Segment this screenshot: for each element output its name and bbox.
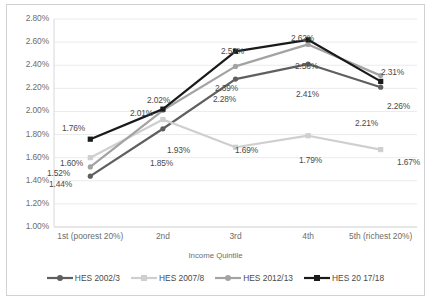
legend-item[interactable]: HES 2007/8 xyxy=(131,273,204,283)
data-point-marker xyxy=(306,133,311,138)
data-label: 2.02% xyxy=(147,95,170,105)
legend-marker-icon xyxy=(47,273,73,283)
data-label: 2.21% xyxy=(355,118,378,128)
data-point-marker xyxy=(88,155,93,160)
legend-label: HES 2012/13 xyxy=(243,273,293,283)
y-axis-tick-label: 1.00% xyxy=(9,221,49,231)
y-axis-tick-label: 2.80% xyxy=(9,13,49,23)
data-label: 2.58% xyxy=(295,61,318,71)
data-label: 2.39% xyxy=(215,83,238,93)
data-label: 1.44% xyxy=(49,179,72,189)
y-axis-tick-label: 1.80% xyxy=(9,129,49,139)
legend-item[interactable]: HES 20 17/18 xyxy=(304,273,384,283)
data-point-marker xyxy=(88,137,93,142)
legend-item[interactable]: HES 2012/13 xyxy=(215,273,293,283)
chart-legend: HES 2002/3HES 2007/8HES 2012/13HES 20 17… xyxy=(7,273,424,283)
data-point-marker xyxy=(233,76,238,81)
legend-label: HES 20 17/18 xyxy=(332,273,384,283)
y-axis-tick-label: 2.00% xyxy=(9,105,49,115)
y-axis-tick-label: 1.20% xyxy=(9,198,49,208)
data-point-marker xyxy=(88,164,93,169)
legend-label: HES 2007/8 xyxy=(159,273,204,283)
data-label: 1.76% xyxy=(62,123,85,133)
x-axis-title: Income Quintile xyxy=(7,251,424,260)
data-point-marker xyxy=(160,126,165,131)
data-point-marker xyxy=(378,85,383,90)
y-axis-tick-label: 1.60% xyxy=(9,152,49,162)
data-point-marker xyxy=(233,64,238,69)
legend-marker-icon xyxy=(131,273,157,283)
data-point-marker xyxy=(88,174,93,179)
data-label: 1.67% xyxy=(397,157,420,167)
data-label: 1.60% xyxy=(60,158,83,168)
legend-item[interactable]: HES 2002/3 xyxy=(47,273,120,283)
data-label: 1.93% xyxy=(167,145,190,155)
data-label: 2.01% xyxy=(130,108,153,118)
data-label: 1.69% xyxy=(235,145,258,155)
y-axis-tick-label: 2.60% xyxy=(9,36,49,46)
data-point-marker xyxy=(378,147,383,152)
data-label: 2.28% xyxy=(213,94,236,104)
legend-marker-icon xyxy=(215,273,241,283)
data-point-marker xyxy=(160,117,165,122)
chart-container: 1.00%1.20%1.40%1.60%1.80%2.00%2.20%2.40%… xyxy=(6,4,425,296)
data-label: 2.26% xyxy=(387,101,410,111)
x-axis-tick-label: 5th (richest 20%) xyxy=(321,231,433,241)
data-label: 1.52% xyxy=(47,168,70,178)
data-point-marker xyxy=(378,79,383,84)
data-label: 2.62% xyxy=(291,33,314,43)
data-label: 2.31% xyxy=(381,67,404,77)
data-label: 1.79% xyxy=(299,155,322,165)
data-label: 1.85% xyxy=(150,158,173,168)
y-axis-tick-label: 2.40% xyxy=(9,59,49,69)
y-axis-tick-label: 2.20% xyxy=(9,82,49,92)
data-label: 2.52% xyxy=(221,46,244,56)
y-axis-tick-label: 1.40% xyxy=(9,175,49,185)
data-label: 2.41% xyxy=(296,89,319,99)
legend-label: HES 2002/3 xyxy=(75,273,120,283)
data-point-marker xyxy=(160,107,165,112)
legend-marker-icon xyxy=(304,273,330,283)
